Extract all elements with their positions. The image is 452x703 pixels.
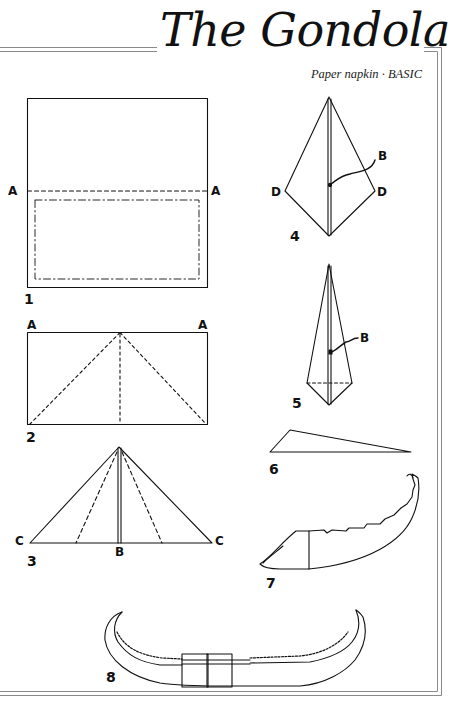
step-number-1: 1 xyxy=(24,292,34,306)
step-number-5: 5 xyxy=(292,396,302,410)
diagram-step-6 xyxy=(270,430,411,452)
label-a-right-2: A xyxy=(198,319,207,331)
diagram-step-5 xyxy=(307,264,358,405)
step-number-8: 8 xyxy=(106,670,116,684)
label-b-4: B xyxy=(378,150,387,162)
label-b-3: B xyxy=(115,546,124,558)
label-d-right-4: D xyxy=(377,186,387,198)
diagram-step-2 xyxy=(28,333,208,425)
label-b-5: B xyxy=(360,332,369,344)
step-number-4: 4 xyxy=(290,229,300,243)
label-a-left-1: A xyxy=(8,185,17,197)
diagram-step-7 xyxy=(260,474,419,569)
step-number-6: 6 xyxy=(269,462,279,476)
step-number-3: 3 xyxy=(27,554,37,568)
diagram-step-3 xyxy=(30,447,212,543)
step-number-2: 2 xyxy=(26,430,36,444)
label-a-left-2: A xyxy=(27,319,36,331)
label-c-left-3: C xyxy=(15,535,24,547)
step-number-7: 7 xyxy=(266,576,276,590)
label-c-right-3: C xyxy=(215,535,224,547)
label-a-right-1: A xyxy=(211,185,220,197)
diagram-step-1 xyxy=(28,99,208,288)
label-d-left-4: D xyxy=(271,186,281,198)
diagram-step-4 xyxy=(285,97,375,236)
diagram-step-8 xyxy=(105,610,365,687)
